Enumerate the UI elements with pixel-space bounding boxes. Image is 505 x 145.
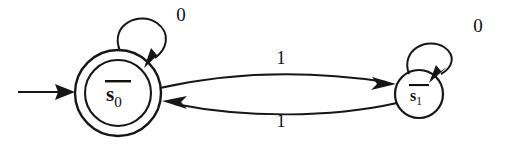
transition-label-s1-self: 0: [473, 15, 483, 36]
state-machine-diagram: s0 s1: [0, 0, 505, 145]
transition-s1-to-s0-path: [175, 103, 397, 114]
state-s0-label-base: s: [106, 82, 114, 106]
start-arrow-head: [55, 84, 75, 100]
start-arrow: [18, 84, 75, 100]
transition-label-s1-to-s0: 1: [277, 111, 286, 131]
transition-s0-to-s1[interactable]: [160, 74, 396, 90]
fsm-canvas: s0 s1: [0, 0, 505, 145]
state-s1-overline: [409, 84, 429, 86]
transition-s0-to-s1-arrowhead: [371, 77, 396, 90]
transition-s0-self-arrowhead: [144, 48, 163, 68]
transition-label-s0-self: 0: [176, 4, 186, 25]
transition-label-s0-to-s1: 1: [277, 48, 286, 68]
state-s1-label-subscript: 1: [416, 95, 422, 107]
state-s1-circle: [395, 70, 443, 118]
state-s0-label-subscript: 0: [114, 94, 122, 110]
state-s0-inner-circle: [85, 60, 151, 126]
transition-s0-to-s1-path: [160, 74, 386, 88]
transition-s1-to-s0-arrowhead: [162, 96, 187, 109]
state-node-s1[interactable]: s1: [395, 70, 443, 118]
